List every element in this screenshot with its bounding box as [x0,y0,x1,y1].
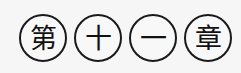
char: 十 [85,25,112,52]
circled-char-4: 章 [184,14,232,62]
circled-char-3: 一 [129,14,177,62]
chapter-heading: 第 十 一 章 [19,14,232,62]
char: 章 [195,25,222,52]
char: 一 [140,25,167,52]
circled-char-2: 十 [74,14,122,62]
char: 第 [30,25,57,52]
circled-char-1: 第 [19,14,67,62]
